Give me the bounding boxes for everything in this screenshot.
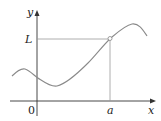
point-a-L	[108, 37, 112, 41]
L-label: L	[24, 33, 32, 46]
x-axis-arrow-icon	[150, 99, 156, 104]
origin-label: 0	[28, 104, 35, 117]
a-label: a	[107, 104, 114, 117]
x-axis-label: x	[148, 104, 155, 117]
y-axis-arrow-icon	[35, 10, 40, 16]
y-axis-label: y	[26, 6, 34, 19]
function-graph: y x 0 L a	[0, 0, 161, 121]
